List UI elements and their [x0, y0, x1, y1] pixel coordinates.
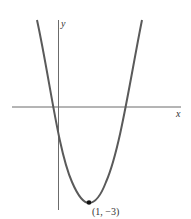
vertex-label: (1, −3) — [92, 207, 119, 217]
x-axis-label: x — [176, 109, 180, 119]
parabola-curve — [37, 20, 142, 203]
graph-canvas — [0, 0, 191, 219]
y-axis-label: y — [61, 19, 65, 29]
vertex-point — [87, 200, 92, 205]
